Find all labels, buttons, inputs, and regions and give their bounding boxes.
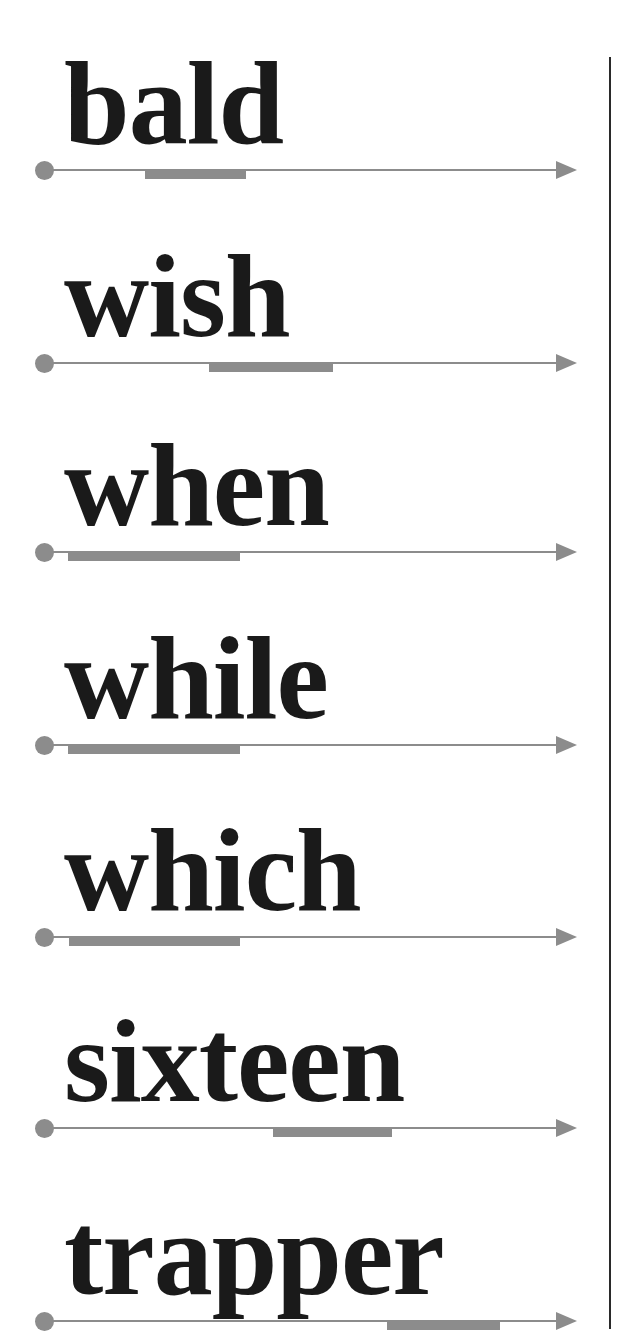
arrowhead-icon [556,1312,577,1330]
highlight-segment [209,362,333,372]
word-text: when [64,427,329,545]
highlight-segment [68,744,240,754]
arrowhead-icon [556,928,577,946]
arrowhead-icon [556,543,577,561]
timeline-track [44,169,558,171]
highlight-segment [387,1320,500,1330]
start-dot-icon [35,928,54,947]
word-text: while [64,620,328,738]
arrowhead-icon [556,736,577,754]
highlight-segment [68,551,240,561]
start-dot-icon [35,543,54,562]
start-dot-icon [35,161,54,180]
highlight-segment [273,1127,392,1137]
start-dot-icon [35,736,54,755]
start-dot-icon [35,1312,54,1331]
word-text: sixteen [64,1003,404,1121]
word-text: which [64,812,361,930]
highlight-segment [69,936,240,946]
start-dot-icon [35,354,54,373]
vertical-divider [609,57,611,1329]
word-text: trapper [64,1196,444,1314]
word-row: trapper [0,0,600,1]
start-dot-icon [35,1119,54,1138]
highlight-segment [145,169,246,179]
word-text: bald [64,45,283,163]
arrowhead-icon [556,161,577,179]
word-text: wish [64,238,290,356]
arrowhead-icon [556,354,577,372]
arrowhead-icon [556,1119,577,1137]
